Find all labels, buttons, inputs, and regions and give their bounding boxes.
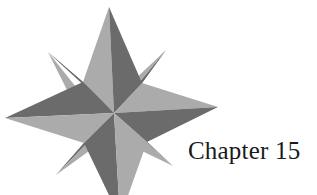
compass-rose-icon xyxy=(0,0,317,195)
chapter-heading: Chapter 15 xyxy=(188,137,300,165)
major-points xyxy=(5,7,218,195)
